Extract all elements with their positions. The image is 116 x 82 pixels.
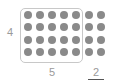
boxed-dot [36,48,44,56]
extra-dot [85,11,93,19]
extra-columns-label: 2 [93,67,99,78]
boxed-columns-label: 5 [49,67,55,78]
boxed-dot [36,23,44,31]
boxed-dot [24,36,32,44]
boxed-dot [24,11,32,19]
boxed-dot [72,23,80,31]
boxed-dot [48,48,56,56]
boxed-dot [60,36,68,44]
boxed-dot [48,36,56,44]
extra-dot [97,11,105,19]
extra-dot [85,36,93,44]
extra-dot [85,23,93,31]
boxed-dot [48,11,56,19]
extra-dot [97,23,105,31]
extra-columns-underline [88,79,104,80]
extra-dot [85,48,93,56]
boxed-dot [72,36,80,44]
boxed-dot [60,48,68,56]
boxed-dot [36,36,44,44]
extra-dot [97,36,105,44]
boxed-dot [72,48,80,56]
boxed-dot [36,11,44,19]
boxed-dot [24,23,32,31]
boxed-dot [24,48,32,56]
boxed-dot [72,11,80,19]
extra-dot [97,48,105,56]
boxed-dot [60,11,68,19]
boxed-dot [60,23,68,31]
boxed-dot [48,23,56,31]
rows-label: 4 [7,27,13,38]
